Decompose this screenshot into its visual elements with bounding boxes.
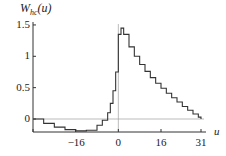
y-tick-label: 1 bbox=[25, 49, 31, 61]
series-line bbox=[33, 28, 201, 131]
chart: Whc(u) u 00.511.5 −1601631 bbox=[0, 0, 226, 156]
x-tick-label: −16 bbox=[68, 136, 84, 148]
y-axis-label: Whc(u) bbox=[20, 1, 52, 17]
y-tick-label: 1.5 bbox=[16, 18, 30, 30]
x-tick-label: 16 bbox=[153, 136, 169, 148]
x-tick-label: 0 bbox=[110, 136, 126, 148]
plot-area bbox=[0, 0, 226, 156]
x-axis-label: u bbox=[214, 125, 220, 137]
y-tick-label: 0.5 bbox=[16, 81, 30, 93]
x-tick-label: 31 bbox=[193, 136, 209, 148]
y-tick-label: 0 bbox=[25, 112, 31, 124]
